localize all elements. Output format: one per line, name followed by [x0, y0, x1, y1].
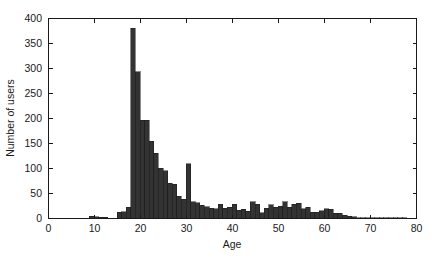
histogram-bar — [352, 217, 357, 219]
y-tick-label: 350 — [24, 37, 42, 49]
histogram-bar — [186, 164, 191, 219]
x-tick-label: 60 — [319, 222, 331, 234]
histogram-bar — [126, 207, 131, 218]
histogram-bar — [269, 205, 274, 219]
histogram-bar — [200, 205, 205, 218]
histogram-bar — [342, 215, 347, 218]
y-tick-label: 300 — [24, 62, 42, 74]
histogram-bar — [214, 209, 219, 219]
y-tick-label: 0 — [36, 212, 42, 224]
histogram-bar — [315, 212, 320, 218]
histogram-bar — [264, 208, 269, 218]
y-tick-label: 150 — [24, 137, 42, 149]
histogram-bar — [287, 207, 292, 218]
histogram-bar — [338, 213, 343, 218]
x-axis-label: Age — [223, 238, 242, 250]
histogram-bar — [250, 202, 255, 219]
x-tick-label: 30 — [181, 222, 193, 234]
histogram-bar — [218, 204, 223, 218]
histogram-bar — [223, 208, 228, 218]
histogram-bar — [140, 120, 145, 218]
x-tick-label: 50 — [273, 222, 285, 234]
histogram-bar — [154, 153, 159, 218]
histogram-bar — [227, 207, 232, 218]
histogram-bar — [296, 203, 301, 218]
y-axis-label: Number of users — [4, 79, 16, 157]
histogram-bar — [329, 209, 334, 218]
histogram-bar — [172, 184, 177, 218]
y-tick-label: 50 — [30, 187, 42, 199]
histogram-figure: 050100150200250300350400 010203040506070… — [0, 0, 438, 263]
histogram-bar — [195, 203, 200, 219]
histogram-bar — [209, 208, 214, 218]
histogram-bar — [99, 217, 104, 218]
histogram-bar — [191, 202, 196, 219]
x-tick-label: 80 — [411, 222, 423, 234]
histogram-bar — [89, 216, 94, 218]
histogram-bar — [333, 213, 338, 218]
histogram-bar — [306, 207, 311, 218]
histogram-bar — [204, 207, 209, 219]
histogram-bar — [273, 207, 278, 218]
histogram-bar — [283, 202, 288, 219]
histogram-bar — [347, 216, 352, 218]
histogram-bar — [237, 210, 242, 218]
histogram-bar — [131, 28, 136, 218]
x-tick-label: 10 — [89, 222, 101, 234]
x-tick-label: 20 — [135, 222, 147, 234]
x-axis-tick-labels: 01020304050607080 — [46, 222, 423, 234]
histogram-bar — [246, 211, 251, 218]
histogram-bar — [177, 196, 182, 218]
histogram-bar — [149, 141, 154, 218]
histogram-bar — [145, 120, 150, 218]
histogram-bar — [310, 212, 315, 218]
y-tick-label: 400 — [24, 12, 42, 24]
histogram-bar — [301, 209, 306, 219]
histogram-bar — [168, 183, 173, 218]
histogram-bar — [241, 209, 246, 218]
histogram-bar — [135, 72, 140, 219]
x-tick-label: 40 — [227, 222, 239, 234]
y-tick-label: 100 — [24, 162, 42, 174]
histogram-bar — [255, 204, 260, 218]
histogram-bar — [319, 211, 324, 219]
histogram-bar — [122, 212, 127, 219]
histogram-chart: 050100150200250300350400 010203040506070… — [0, 0, 438, 263]
x-tick-label: 0 — [46, 222, 52, 234]
y-tick-label: 250 — [24, 87, 42, 99]
histogram-bar — [260, 213, 265, 219]
plot-background — [48, 18, 416, 218]
histogram-bar — [181, 199, 186, 218]
y-axis-tick-labels: 050100150200250300350400 — [24, 12, 42, 224]
histogram-bar — [158, 168, 163, 218]
histogram-bar — [292, 204, 297, 218]
histogram-bar — [103, 217, 108, 218]
x-tick-label: 70 — [365, 222, 377, 234]
histogram-bar — [163, 171, 168, 219]
y-tick-label: 200 — [24, 112, 42, 124]
histogram-bar — [117, 212, 122, 218]
